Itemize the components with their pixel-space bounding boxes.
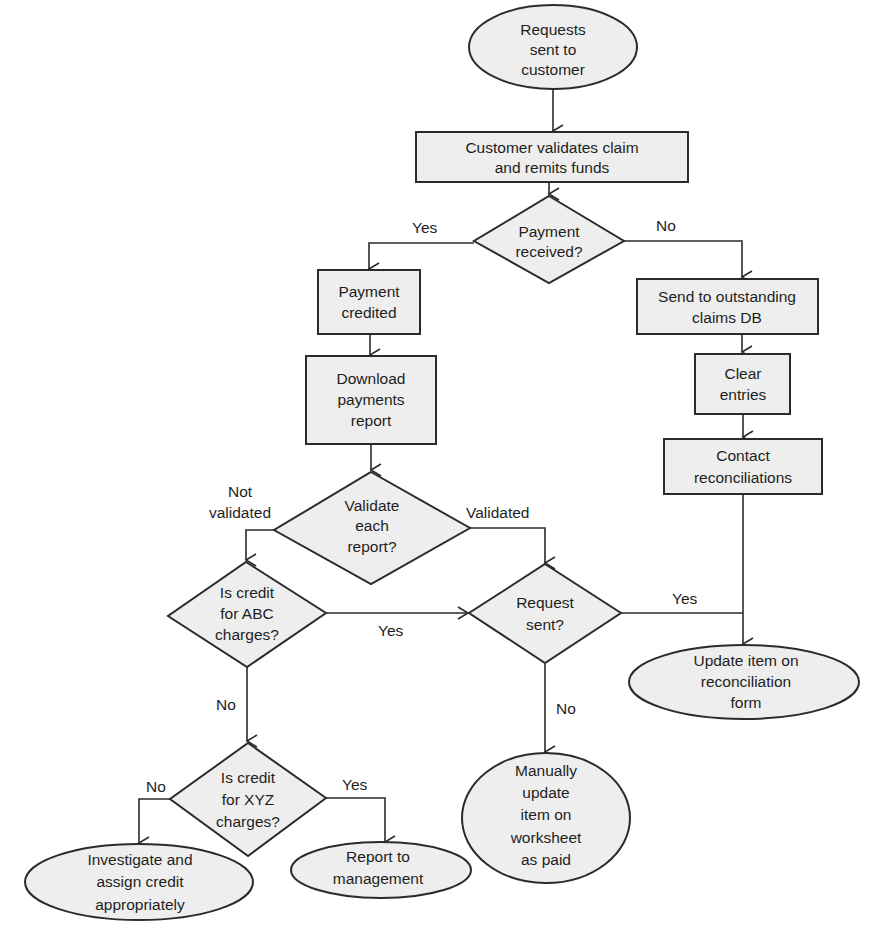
svg-text:worksheet: worksheet [510,829,582,846]
flowchart-canvas: Yes No Not validated Validated Yes Yes N… [0,0,887,950]
edge-received-yes [369,243,474,269]
label-abc-yes: Yes [378,622,404,639]
svg-text:Payment: Payment [518,223,580,240]
svg-text:Customer validates claim: Customer validates claim [465,139,638,156]
svg-text:Is credit: Is credit [221,769,276,786]
node-send-outstanding: Send to outstanding claims DB [637,279,818,334]
svg-text:Is credit: Is credit [220,584,275,601]
svg-text:Request: Request [516,594,574,611]
svg-text:sent?: sent? [526,616,564,633]
svg-text:for XYZ: for XYZ [222,791,275,808]
svg-text:claims DB: claims DB [692,309,762,326]
svg-text:and remits funds: and remits funds [495,159,610,176]
node-payment-received: Payment received? [474,196,624,283]
label-validated: Validated [466,504,529,521]
svg-text:Payment: Payment [338,283,400,300]
node-report-management: Report to management [291,842,471,898]
svg-text:Manually: Manually [515,762,577,779]
svg-text:assign credit: assign credit [96,873,184,890]
edge-xyz-no [139,799,170,843]
label-request-yes: Yes [672,590,698,607]
svg-text:Validate: Validate [345,497,400,514]
svg-text:Clear: Clear [724,365,761,382]
svg-text:Requests: Requests [520,21,586,38]
svg-text:each: each [355,517,389,534]
node-credit-xyz: Is credit for XYZ charges? [170,743,326,856]
svg-text:credited: credited [341,304,396,321]
svg-text:sent to: sent to [530,41,577,58]
node-payment-credited: Payment credited [318,270,420,334]
connectors [139,89,743,843]
label-not-validated-2: validated [209,504,271,521]
svg-text:update: update [522,784,569,801]
svg-text:Report to: Report to [346,848,410,865]
edge-xyz-yes [326,798,385,842]
node-requests-sent: Requests sent to customer [469,5,637,89]
svg-text:appropriately: appropriately [95,896,185,913]
svg-text:reconciliation: reconciliation [701,673,791,690]
label-request-no: No [556,700,576,717]
node-clear-entries: Clear entries [695,354,790,414]
label-xyz-yes: Yes [342,776,368,793]
svg-text:charges?: charges? [216,813,280,830]
edge-received-no [624,241,742,277]
node-download-report: Download payments report [306,356,436,444]
node-manually-update: Manually update item on worksheet as pai… [462,753,630,883]
label-received-yes: Yes [412,219,438,236]
node-customer-validates: Customer validates claim and remits fund… [416,132,688,182]
svg-text:as paid: as paid [521,851,571,868]
edge-validated [470,528,545,563]
label-xyz-no: No [146,778,166,795]
node-investigate: Investigate and assign credit appropriat… [25,844,253,920]
svg-text:Contact: Contact [716,447,770,464]
node-validate-each-report: Validate each report? [274,472,470,584]
svg-text:Send to outstanding: Send to outstanding [658,288,796,305]
node-request-sent: Request sent? [469,564,621,663]
node-credit-abc: Is credit for ABC charges? [168,562,326,667]
svg-text:entries: entries [720,386,767,403]
svg-text:reconciliations: reconciliations [694,469,792,486]
svg-text:payments: payments [337,391,404,408]
label-not-validated-1: Not [228,483,253,500]
svg-text:report?: report? [347,538,396,555]
svg-text:charges?: charges? [215,626,279,643]
edge-not-validated [246,530,274,560]
svg-text:Download: Download [337,370,406,387]
node-update-reconciliation-form: Update item on reconciliation form [629,645,859,719]
svg-text:management: management [333,870,424,887]
label-abc-no: No [216,696,236,713]
label-received-no: No [656,217,676,234]
svg-text:for ABC: for ABC [220,605,273,622]
svg-text:report: report [351,412,392,429]
node-contact-reconciliations: Contact reconciliations [664,439,822,494]
svg-text:item on: item on [521,806,572,823]
svg-text:Update item on: Update item on [693,652,798,669]
svg-text:Investigate and: Investigate and [87,851,192,868]
svg-text:customer: customer [521,61,585,78]
svg-text:form: form [731,694,762,711]
svg-text:received?: received? [515,243,583,260]
